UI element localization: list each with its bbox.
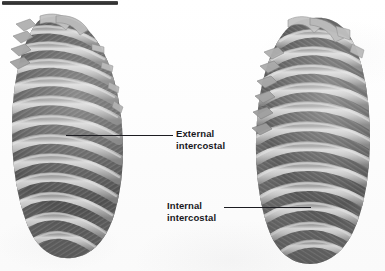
right-rib-cage — [240, 0, 385, 271]
external-intercostal-leader-line — [66, 135, 173, 136]
external-intercostal-label-line1: External — [176, 128, 225, 140]
external-intercostal-label: External intercostal — [176, 128, 225, 151]
right-cage-body — [240, 0, 385, 271]
internal-intercostal-label-line1: Internal — [167, 200, 216, 212]
internal-intercostal-label-line2: intercostal — [167, 212, 216, 224]
intercostal-muscles-figure: External intercostal Internal intercosta… — [0, 0, 385, 271]
external-intercostal-label-line2: intercostal — [176, 140, 225, 152]
internal-intercostal-label: Internal intercostal — [167, 200, 216, 223]
internal-intercostal-leader-line — [224, 207, 311, 208]
